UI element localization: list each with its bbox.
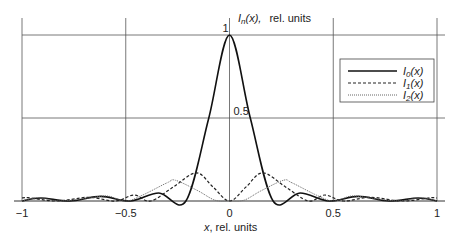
chart: −1−0.500.510.51 In(x),rel. units x, rel.… [0,0,457,241]
legend: I0(x)I1(x)I2(x) [340,59,434,103]
grid-lines [14,18,445,201]
x-tick-label: 1 [434,207,440,219]
tick-labels: −1−0.500.510.51 [16,22,440,219]
x-tick-label: 0.5 [326,207,341,219]
y-tick-label: 0.5 [234,105,249,117]
y-axis-label: In(x),rel. units [238,12,311,26]
y-tick-label: 1 [223,22,229,34]
x-tick-label: 0 [226,207,232,219]
x-tick-label: −0.5 [115,207,137,219]
x-axis-label: x, rel. units [203,221,258,233]
x-tick-label: −1 [16,207,29,219]
